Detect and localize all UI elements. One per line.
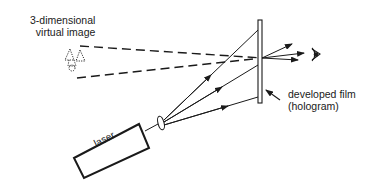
film-label-line1: developed film [288, 88, 356, 100]
film-pointer-arrow [266, 90, 280, 100]
virtual-image-label-line1: 3-dimensional [30, 14, 95, 26]
illumination-rays [164, 30, 258, 125]
virtual-image-label: 3-dimensional virtual image [30, 14, 95, 38]
virtual-image-icon [65, 49, 85, 71]
lens-icon [156, 115, 165, 130]
reconstructed-rays [262, 44, 304, 60]
film-label-line2: (hologram) [288, 100, 356, 112]
virtual-rays [77, 46, 262, 78]
virtual-image-label-line2: virtual image [30, 26, 95, 38]
eye-icon [312, 48, 320, 61]
film-hologram [258, 20, 262, 103]
film-label: developed film (hologram) [288, 88, 356, 112]
